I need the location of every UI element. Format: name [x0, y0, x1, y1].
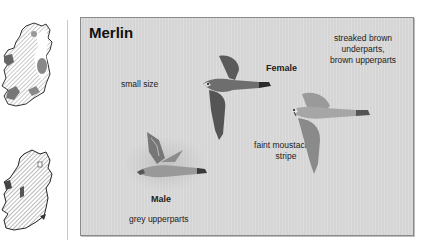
label-small-size: small size	[121, 79, 158, 90]
male-merlin-illustration	[131, 128, 211, 188]
label-line: underparts,	[309, 44, 417, 55]
label-streaked-underparts: streaked brown underparts, brown upperpa…	[309, 33, 417, 66]
ireland-map-top	[0, 20, 58, 110]
column-divider	[67, 20, 68, 240]
female-merlin-streaked-illustration	[286, 88, 372, 176]
label-grey-upperparts: grey upperparts	[129, 214, 189, 225]
label-line: brown upperparts	[309, 55, 417, 66]
label-line: streaked brown	[309, 33, 417, 44]
species-title: Merlin	[89, 24, 133, 41]
label-male: Male	[151, 194, 171, 205]
species-plate: Merlin small size Female streaked brown …	[80, 17, 414, 236]
ireland-map-bottom	[0, 148, 58, 234]
